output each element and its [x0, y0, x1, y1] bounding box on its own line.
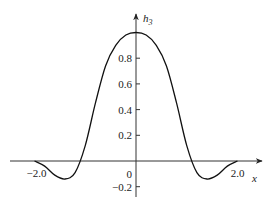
y-tick-label: 0.2 [118, 129, 132, 141]
chart: 0.80.60.40.2−0.2−2.002.0 h3 x [0, 0, 277, 204]
y-tick-label: 0.6 [118, 78, 132, 90]
y-axis-label: h3 [143, 12, 153, 27]
y-tick-label: −0.2 [112, 181, 132, 193]
x-tick-label: −2.0 [27, 167, 47, 179]
y-tick-label: 0.8 [118, 52, 132, 64]
y-tick-label: 0.4 [118, 104, 132, 116]
x-tick-label: 2.0 [231, 167, 245, 179]
x-tick-label: 0 [127, 168, 133, 180]
x-axis-label: x [251, 172, 257, 184]
y-ticks [136, 58, 140, 187]
